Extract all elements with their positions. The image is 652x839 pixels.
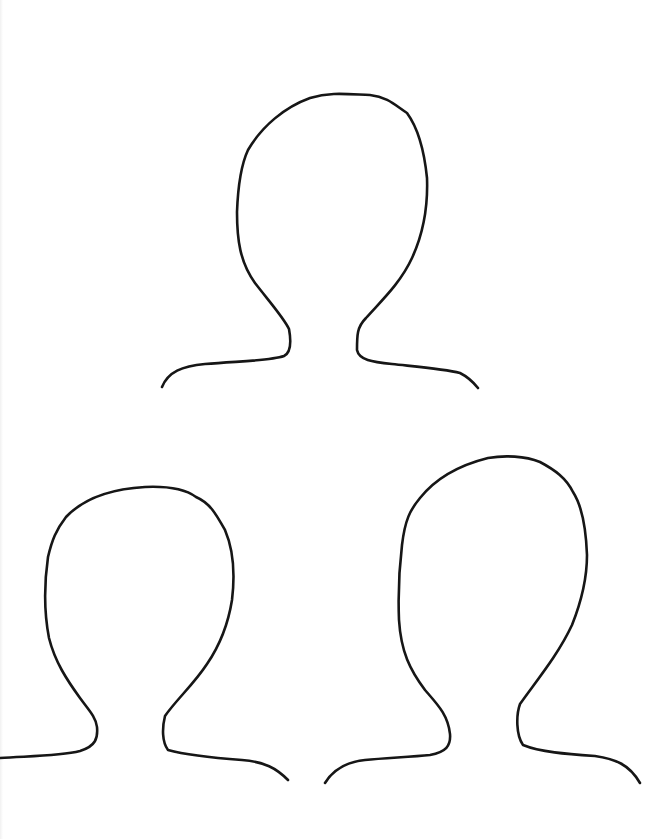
head-outline-bottom-left bbox=[0, 487, 288, 780]
head-outline-top bbox=[162, 94, 478, 388]
figure-canvas bbox=[0, 0, 652, 839]
head-outline-bottom-right bbox=[325, 456, 640, 783]
